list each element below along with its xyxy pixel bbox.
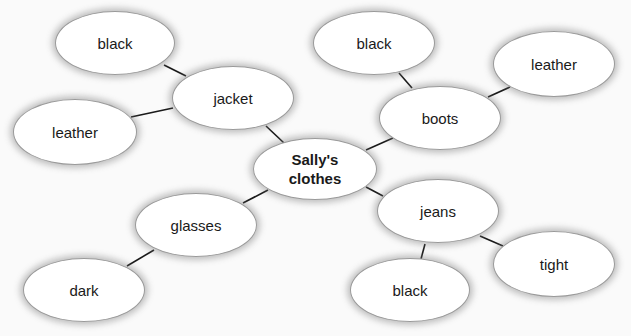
connector-jacket-jacket-leather [131, 108, 173, 117]
node-jacket-black: black [55, 11, 175, 75]
node-label: dark [69, 281, 98, 300]
node-boots-black: black [313, 11, 435, 75]
node-label: black [356, 34, 391, 53]
connector-glasses-glasses-dark [127, 250, 154, 266]
node-glasses: glasses [135, 193, 257, 257]
node-label: glasses [171, 216, 222, 235]
central-node: Sally's clothes [253, 138, 377, 200]
node-boots-leather: leather [493, 31, 615, 97]
node-jeans-black: black [350, 258, 470, 322]
connector-center-jacket [266, 126, 284, 143]
connector-center-jeans [366, 187, 383, 196]
node-jacket-leather: leather [13, 99, 137, 165]
node-label: boots [422, 109, 459, 128]
node-jacket: jacket [172, 66, 294, 130]
connector-center-glasses [243, 190, 268, 203]
connector-center-boots [366, 138, 393, 150]
node-label: tight [540, 255, 568, 274]
connector-boots-boots-black [399, 73, 412, 88]
node-label: black [392, 281, 427, 300]
connector-boots-boots-leather [488, 87, 510, 97]
connector-jeans-jeans-tight [480, 236, 503, 246]
node-label: leather [52, 123, 98, 142]
node-label: jeans [420, 202, 456, 221]
node-label: jacket [213, 89, 252, 108]
node-label: Sally's clothes [289, 150, 342, 188]
node-label: leather [531, 55, 577, 74]
connector-jacket-jacket-black [164, 65, 186, 76]
node-jeans: jeans [377, 179, 499, 243]
connector-jeans-jeans-black [421, 244, 425, 259]
node-boots: boots [379, 86, 501, 150]
node-glasses-dark: dark [23, 258, 145, 322]
node-label: black [97, 34, 132, 53]
node-jeans-tight: tight [493, 231, 615, 297]
